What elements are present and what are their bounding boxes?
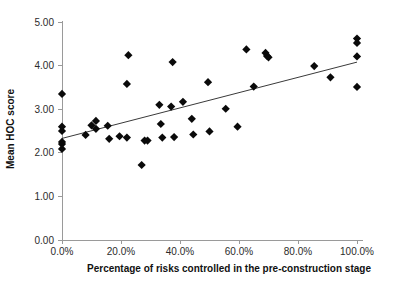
y-tick-label: 3.00 bbox=[35, 104, 55, 115]
y-tick-label: 4.00 bbox=[35, 60, 55, 71]
data-point bbox=[105, 135, 113, 143]
y-tick-label: 2.00 bbox=[35, 147, 55, 158]
data-point bbox=[115, 132, 123, 140]
x-tick-label: 100.0% bbox=[340, 246, 374, 257]
y-tick-label: 5.00 bbox=[35, 17, 55, 28]
data-point bbox=[353, 52, 361, 60]
data-point bbox=[179, 98, 187, 106]
x-tick-label: 60.0% bbox=[225, 246, 253, 257]
data-point bbox=[58, 127, 66, 135]
x-tick-label: 80.0% bbox=[284, 246, 312, 257]
x-axis-tick-labels: 0.0%20.0%40.0%60.0%80.0%100.0% bbox=[51, 246, 374, 257]
data-point bbox=[169, 58, 177, 66]
data-point bbox=[233, 123, 241, 131]
data-point bbox=[104, 122, 112, 130]
chart-canvas: 0.001.002.003.004.005.00 0.0%20.0%40.0%6… bbox=[0, 0, 397, 283]
data-point bbox=[222, 105, 230, 113]
data-point bbox=[170, 133, 178, 141]
data-point bbox=[58, 90, 66, 98]
data-point bbox=[205, 127, 213, 135]
x-axis-title: Percentage of risks controlled in the pr… bbox=[87, 263, 371, 274]
data-point bbox=[138, 161, 146, 169]
data-point bbox=[124, 51, 132, 59]
data-point bbox=[123, 80, 131, 88]
data-point bbox=[310, 62, 318, 70]
data-point bbox=[242, 45, 250, 53]
x-tick-label: 20.0% bbox=[107, 246, 135, 257]
data-point bbox=[204, 78, 212, 86]
data-point bbox=[58, 145, 66, 153]
x-tick-label: 40.0% bbox=[166, 246, 194, 257]
data-point bbox=[189, 130, 197, 138]
data-point bbox=[188, 115, 196, 123]
data-point bbox=[353, 39, 361, 47]
y-tick-label: 0.00 bbox=[35, 235, 55, 246]
data-point bbox=[158, 133, 166, 141]
y-axis-tick-labels: 0.001.002.003.004.005.00 bbox=[35, 17, 55, 246]
data-point bbox=[155, 101, 163, 109]
x-tick-label: 0.0% bbox=[51, 246, 74, 257]
y-axis-title: Mean HOC score bbox=[5, 89, 16, 169]
data-points bbox=[58, 34, 361, 169]
data-point bbox=[157, 120, 165, 128]
data-point bbox=[326, 73, 334, 81]
scatter-chart-figure: 0.001.002.003.004.005.00 0.0%20.0%40.0%6… bbox=[0, 0, 397, 283]
data-point bbox=[353, 83, 361, 91]
y-tick-label: 1.00 bbox=[35, 191, 55, 202]
data-point bbox=[123, 133, 131, 141]
